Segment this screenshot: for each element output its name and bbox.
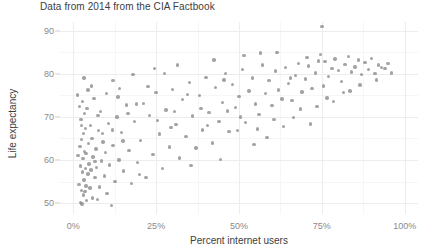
data-point <box>91 196 94 199</box>
data-point <box>325 96 328 99</box>
data-point <box>367 68 370 71</box>
y-tick-label-80: 80 <box>30 69 54 79</box>
data-point <box>204 76 207 79</box>
data-point <box>126 112 129 115</box>
gridline-minor-x <box>363 22 364 214</box>
data-point <box>87 162 90 165</box>
data-point <box>299 107 302 110</box>
data-point <box>217 120 220 123</box>
data-point <box>146 85 149 88</box>
data-point <box>322 84 325 87</box>
data-point <box>164 108 167 111</box>
y-axis-title: Life expectancy <box>7 74 18 174</box>
data-point <box>310 87 313 90</box>
data-point <box>173 110 176 113</box>
data-point <box>92 97 95 100</box>
data-point <box>257 113 260 116</box>
gridline-x-100% <box>405 22 406 214</box>
data-point <box>84 127 87 130</box>
data-point <box>383 67 386 70</box>
data-point <box>158 132 161 135</box>
data-point <box>199 107 202 110</box>
data-point <box>122 169 125 172</box>
data-point <box>211 141 214 144</box>
data-point <box>94 147 97 150</box>
data-point <box>353 65 356 68</box>
data-point <box>103 174 106 177</box>
y-tick-label-90: 90 <box>30 26 54 36</box>
data-point <box>100 159 103 162</box>
data-point <box>242 54 245 57</box>
data-point <box>194 146 197 149</box>
data-point <box>261 63 264 66</box>
data-point <box>91 155 94 158</box>
data-point <box>163 72 166 75</box>
data-point <box>370 57 373 60</box>
data-point <box>111 144 114 147</box>
data-point <box>274 69 277 72</box>
data-point <box>363 61 366 64</box>
data-point <box>348 89 351 92</box>
data-point <box>168 145 171 148</box>
data-point <box>96 198 99 201</box>
data-point <box>337 69 340 72</box>
data-point <box>93 160 96 163</box>
data-point <box>115 115 118 118</box>
data-point <box>105 192 108 195</box>
data-point <box>206 124 209 127</box>
data-point <box>95 166 98 169</box>
gridline-y-80 <box>60 74 418 75</box>
data-point <box>108 163 111 166</box>
data-point <box>135 102 138 105</box>
data-point <box>171 88 174 91</box>
data-point <box>294 74 297 77</box>
data-point <box>188 81 191 84</box>
data-point <box>244 121 247 124</box>
data-point <box>201 128 204 131</box>
data-point <box>320 25 323 28</box>
data-point <box>323 60 326 63</box>
data-point <box>212 58 215 61</box>
data-point <box>207 111 210 114</box>
data-point <box>169 126 172 129</box>
scatter-chart: Data from 2014 from the CIA Factbook 506… <box>0 0 444 251</box>
data-point <box>121 139 124 142</box>
data-point <box>90 84 93 87</box>
gridline-x-75% <box>322 22 323 214</box>
data-point <box>116 95 119 98</box>
gridline-y-60 <box>60 160 418 161</box>
y-tick-label-60: 60 <box>30 155 54 165</box>
data-point <box>77 183 80 186</box>
data-point <box>107 122 110 125</box>
x-tick-label-25%: 25% <box>147 221 165 231</box>
gridline-x-0% <box>73 22 74 214</box>
data-point <box>93 176 96 179</box>
data-point <box>237 95 240 98</box>
data-point <box>84 152 87 155</box>
data-point <box>78 105 81 108</box>
data-point <box>111 128 114 131</box>
data-point <box>184 135 187 138</box>
data-point <box>136 161 139 164</box>
data-point <box>101 132 104 135</box>
data-point <box>120 131 123 134</box>
data-point <box>304 77 307 80</box>
gridline-minor-x <box>280 22 281 214</box>
data-point <box>330 67 333 70</box>
data-point <box>234 106 237 109</box>
data-point <box>256 127 259 130</box>
x-tick-label-50%: 50% <box>230 221 248 231</box>
data-point <box>87 142 90 145</box>
data-point <box>80 124 83 127</box>
data-point <box>181 98 184 101</box>
data-point <box>82 76 85 79</box>
data-point <box>89 168 92 171</box>
data-point <box>97 129 100 132</box>
data-point <box>241 68 244 71</box>
data-point <box>373 72 376 75</box>
data-point <box>142 102 145 105</box>
data-point <box>83 112 86 115</box>
data-point <box>81 100 84 103</box>
data-point <box>84 184 87 187</box>
data-point <box>222 78 225 81</box>
